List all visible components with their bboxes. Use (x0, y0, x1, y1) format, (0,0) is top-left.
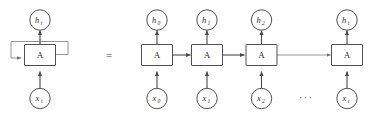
step-1-cell-label: A (204, 50, 211, 60)
unrolled-step-2: A h 2 x 2 (246, 10, 277, 109)
step-2-output-subscript: 2 (262, 20, 265, 26)
step-1-output-subscript: 1 (207, 20, 210, 26)
rnn-unrolling-figure: A h t x t = A h (0, 0, 372, 119)
rolled-input-circle (30, 88, 50, 108)
sequence-ellipsis: ··· (299, 91, 314, 103)
step-2-output-label: h (256, 15, 260, 25)
rolled-input-label: x (35, 93, 40, 103)
step-2-cell-label: A (258, 50, 265, 60)
step-0-output-subscript: 0 (157, 20, 160, 26)
step-t-input-circle (337, 88, 357, 108)
equals-sign: = (106, 49, 112, 61)
unrolled-step-1: A h 1 x 1 (192, 10, 223, 109)
unrolled-rnn-group: A h 0 x 0 A h 1 x 1 (142, 10, 363, 109)
step-t-input-label: x (342, 93, 347, 103)
step-0-input-subscript: 0 (158, 98, 161, 104)
unrolled-step-0: A h 0 x 0 (142, 10, 173, 109)
step-2-input-subscript: 2 (262, 98, 265, 104)
rolled-output-label: h (35, 15, 39, 25)
step-0-cell-label: A (154, 50, 161, 60)
step-1-output-label: h (202, 15, 206, 25)
unrolled-step-t: A h t x t (332, 10, 363, 109)
step-0-input-label: x (152, 93, 157, 103)
rolled-rnn-group: A h t x t (11, 10, 68, 109)
rolled-cell-label: A (37, 50, 44, 60)
step-2-input-label: x (256, 93, 261, 103)
step-1-input-label: x (202, 93, 207, 103)
step-t-cell-label: A (344, 50, 351, 60)
step-0-output-label: h (152, 15, 156, 25)
step-1-input-subscript: 1 (208, 98, 211, 104)
step-t-output-label: h (342, 15, 346, 25)
